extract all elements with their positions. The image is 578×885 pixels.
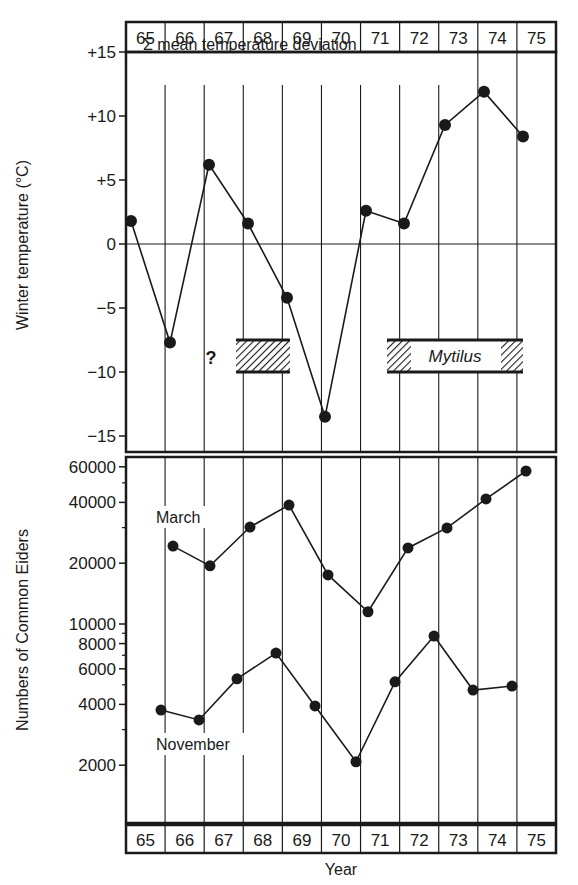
march-point xyxy=(323,569,334,580)
march-series-label: March xyxy=(156,509,200,526)
year-label: 70 xyxy=(332,831,351,850)
year-label: 75 xyxy=(527,29,546,48)
y-tick-label: 60000 xyxy=(69,458,116,477)
unknown-marker: ? xyxy=(206,348,217,368)
march-point xyxy=(205,560,216,571)
temperature-point xyxy=(164,337,176,349)
bar-body xyxy=(236,340,290,372)
mytilus-label: Mytilus xyxy=(429,347,482,366)
temperature-point xyxy=(439,119,451,131)
hatch-right xyxy=(501,340,523,372)
year-label: 73 xyxy=(449,831,468,850)
y-tick-label: 4000 xyxy=(78,695,116,714)
march-line xyxy=(173,471,526,612)
november-point xyxy=(429,631,440,642)
y-tick-label: 10000 xyxy=(69,615,116,634)
march-point xyxy=(168,541,179,552)
march-point xyxy=(363,606,374,617)
november-point xyxy=(390,676,401,687)
top-y-axis-label: Winter temperature (°C) xyxy=(14,160,31,330)
year-label: 69 xyxy=(292,831,311,850)
november-point xyxy=(156,705,167,716)
year-label: 75 xyxy=(527,831,546,850)
november-point xyxy=(232,673,243,684)
november-point xyxy=(468,685,479,696)
y-tick-label: −5 xyxy=(97,299,116,318)
temperature-point xyxy=(281,292,293,304)
bottom-year-footer: 6566676869707172737475 xyxy=(126,825,556,853)
eider-temperature-chart: 6566676869707172737475 +15+10+50−5−10−15… xyxy=(0,0,578,885)
temperature-point xyxy=(125,215,137,227)
hatched-bar xyxy=(236,340,290,372)
november-series-label: November xyxy=(156,736,230,753)
year-label: 71 xyxy=(371,831,390,850)
y-tick-label: 0 xyxy=(107,235,116,254)
y-tick-label: −10 xyxy=(87,363,116,382)
year-label: 72 xyxy=(410,831,429,850)
november-point xyxy=(507,681,518,692)
temperature-point xyxy=(242,218,254,230)
march-point xyxy=(245,522,256,533)
y-tick-label: 8000 xyxy=(78,635,116,654)
march-point xyxy=(521,466,532,477)
march-point xyxy=(481,493,492,504)
x-axis-label: Year xyxy=(325,861,358,878)
year-label: 67 xyxy=(214,831,233,850)
bottom-y-axis-label: Numbers of Common Eiders xyxy=(14,529,31,731)
y-tick-label: 40000 xyxy=(69,493,116,512)
y-tick-label: +15 xyxy=(87,43,116,62)
y-tick-label: 2000 xyxy=(78,756,116,775)
top-panel-title: Σ mean temperature deviation xyxy=(143,36,357,53)
november-point xyxy=(310,700,321,711)
temperature-point xyxy=(478,86,490,98)
mytilus-bar: Mytilus xyxy=(387,340,523,372)
year-label: 71 xyxy=(371,29,390,48)
temperature-point xyxy=(517,130,529,142)
y-tick-label: +5 xyxy=(97,171,116,190)
november-point xyxy=(351,756,362,767)
year-label: 74 xyxy=(488,831,507,850)
march-point xyxy=(403,542,414,553)
temperature-point xyxy=(398,218,410,230)
y-tick-label: +10 xyxy=(87,107,116,126)
year-label: 72 xyxy=(410,29,429,48)
year-label: 74 xyxy=(488,29,507,48)
year-label: 66 xyxy=(175,831,194,850)
y-tick-label: 6000 xyxy=(78,660,116,679)
temperature-point xyxy=(319,411,331,423)
november-point xyxy=(271,648,282,659)
y-tick-label: 20000 xyxy=(69,554,116,573)
hatch-left xyxy=(387,340,411,372)
temperature-point xyxy=(203,159,215,171)
eider-count-panel: 600004000020000100008000600040002000 xyxy=(69,457,556,823)
temperature-panel: +15+10+50−5−10−15Mytilus xyxy=(87,43,556,452)
year-label: 68 xyxy=(253,831,272,850)
year-label: 73 xyxy=(449,29,468,48)
y-tick-label: −15 xyxy=(87,427,116,446)
title-background xyxy=(128,55,428,83)
march-point xyxy=(442,522,453,533)
march-point xyxy=(284,500,295,511)
temperature-point xyxy=(360,205,372,217)
year-label: 65 xyxy=(136,831,155,850)
november-point xyxy=(194,714,205,725)
